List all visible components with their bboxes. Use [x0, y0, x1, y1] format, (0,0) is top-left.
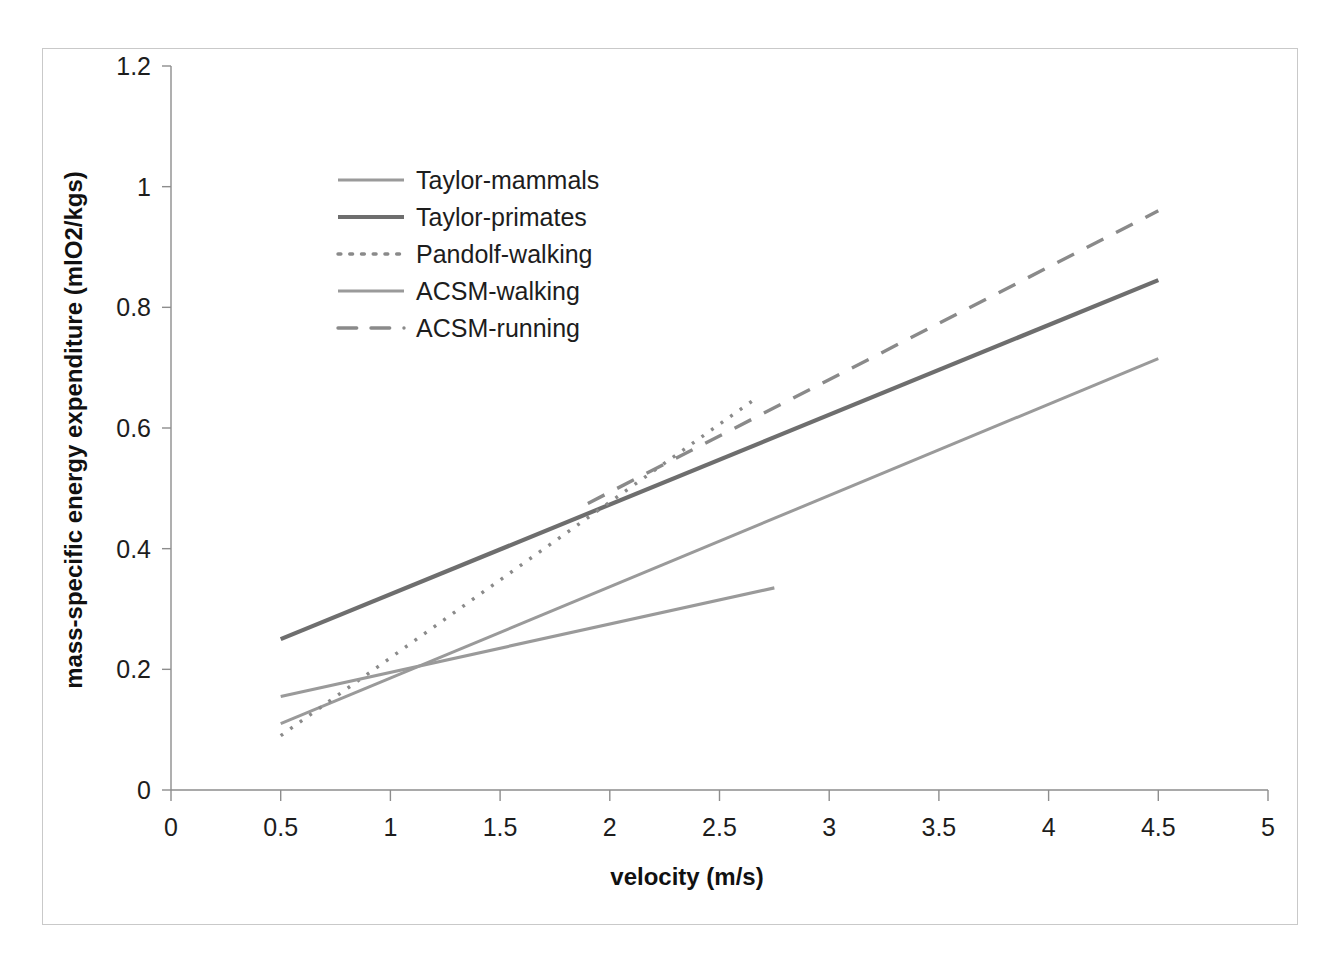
figure-root: 00.20.40.60.811.2 00.511.522.533.544.55 …	[0, 0, 1333, 961]
chart-plot-frame	[42, 48, 1298, 925]
